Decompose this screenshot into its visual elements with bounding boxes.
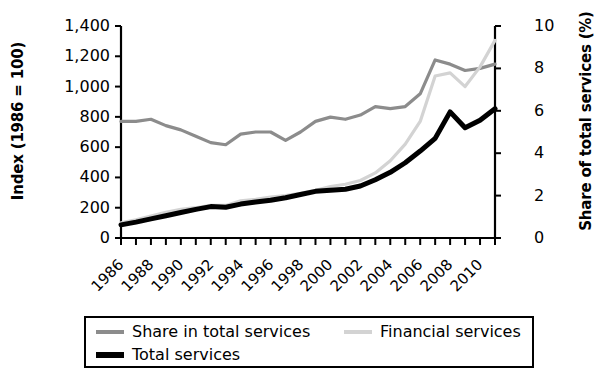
legend-label-financial-services: Financial services	[380, 324, 521, 340]
left-axis-tick-label: 800	[44, 109, 110, 125]
right-axis-tick-label: 8	[534, 60, 574, 76]
chart-legend: Share in total services Financial servic…	[84, 316, 534, 368]
legend-swatch-financial-services	[344, 330, 372, 334]
chart-figure: Index (1986 = 100) Share of total servic…	[0, 0, 605, 372]
left-axis-tick-label: 1,400	[44, 18, 110, 34]
left-axis-tick-label: 1,200	[44, 48, 110, 64]
right-axis-tick-label: 6	[534, 103, 574, 119]
left-axis-tick-label: 600	[44, 139, 110, 155]
right-axis-tick-label: 10	[534, 18, 574, 34]
right-axis-tick-label: 2	[534, 188, 574, 204]
legend-item-financial-services: Financial services	[344, 321, 521, 343]
legend-swatch-total-services	[96, 352, 124, 358]
left-axis-tick-label: 400	[44, 169, 110, 185]
left-axis-tick-label: 200	[44, 200, 110, 216]
legend-item-total-services: Total services	[96, 344, 240, 366]
legend-label-share-in-total-services: Share in total services	[132, 324, 310, 340]
right-axis-title: Share of total services (%)	[577, 1, 595, 241]
legend-label-total-services: Total services	[132, 347, 240, 363]
series-layer	[121, 40, 495, 224]
left-axis-title: Index (1986 = 100)	[9, 21, 27, 221]
legend-item-share-in-total-services: Share in total services	[96, 321, 310, 343]
left-axis-tick-label: 0	[44, 230, 110, 246]
left-axis-tick-label: 1,000	[44, 79, 110, 95]
legend-swatch-share-in-total-services	[96, 330, 124, 334]
right-axis-tick-label: 4	[534, 145, 574, 161]
right-axis-tick-label: 0	[534, 230, 574, 246]
